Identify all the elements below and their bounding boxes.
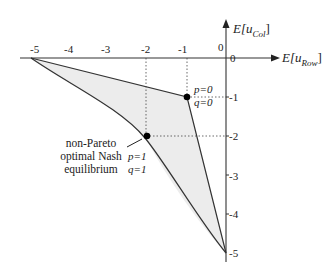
- diagram-canvas: [0, 0, 331, 278]
- y-tick: -4: [229, 208, 238, 220]
- y-tick: -2: [229, 130, 238, 142]
- label-p1: p=1: [128, 150, 146, 162]
- y-tick: 0: [230, 52, 236, 64]
- label-q0: q=0: [194, 96, 212, 108]
- y-axis-label: E[uCol]: [233, 21, 270, 39]
- x-tick: -4: [64, 43, 73, 55]
- x-tick: -2: [141, 43, 150, 55]
- x-axis-label: E[uRow]: [282, 50, 322, 68]
- y-axis-arrow-icon: [223, 19, 230, 28]
- label-p0: p=0: [194, 83, 212, 95]
- x-tick: -1: [178, 43, 187, 55]
- y-tick: -3: [229, 170, 238, 182]
- x-tick: -5: [30, 43, 39, 55]
- x-tick: -3: [101, 43, 110, 55]
- label-q1: q=1: [128, 163, 146, 175]
- annotation-pointer: [127, 139, 142, 147]
- x-axis-arrow-icon: [271, 55, 280, 62]
- y-tick: -5: [229, 247, 238, 259]
- nash-annotation: non-Pareto optimal Nash equilibrium: [56, 137, 126, 176]
- y-tick: -1: [229, 91, 238, 103]
- payoff-diagram: -5 -4 -3 -2 -1 0 0 -1 -2 -3 -4 -5 E[uRow…: [0, 0, 331, 278]
- x-tick: 0: [218, 41, 224, 53]
- point-p0-q0: [184, 94, 191, 101]
- point-p1-q1: [144, 133, 151, 140]
